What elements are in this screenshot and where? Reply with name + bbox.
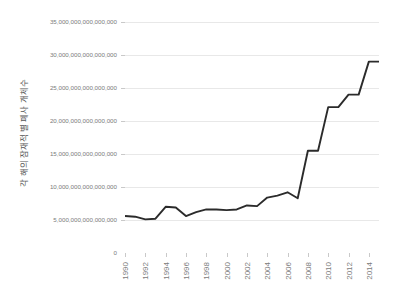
x-axis-tick-label: 2014 xyxy=(365,261,374,279)
x-axis-tick-label: 2002 xyxy=(243,261,252,279)
x-axis-tick-label: 1996 xyxy=(182,261,191,279)
y-axis-tick-label: 25,000,000,000,000,000 xyxy=(50,84,118,91)
y-axis-tick-label: 10,000,000,000,000,000 xyxy=(50,183,118,190)
y-axis-tick-label: 35,000,000,000,000,000 xyxy=(50,18,118,25)
y-axis-tick-label: 30,000,000,000,000,000 xyxy=(50,51,118,58)
x-axis-tick-label: 1998 xyxy=(202,261,211,279)
y-axis-title: 각 해의 잠재적 별 폐사 개체수 xyxy=(19,79,29,187)
x-axis-tick-label: 1992 xyxy=(141,261,150,279)
x-axis-tick-label: 2010 xyxy=(324,261,333,279)
x-axis-tick-label: 2006 xyxy=(284,261,293,279)
line-chart: 05,000,000,000,000,00010,000,000,000,000… xyxy=(0,0,397,304)
x-axis-tick-label: 2004 xyxy=(263,261,272,279)
y-axis-tick-label: 20,000,000,000,000,000 xyxy=(50,117,118,124)
chart-container: 05,000,000,000,000,00010,000,000,000,000… xyxy=(0,0,397,304)
y-axis-tick-label: 15,000,000,000,000,000 xyxy=(50,150,118,157)
x-axis-tick-label: 2012 xyxy=(345,261,354,279)
y-axis-tick-label: 5,000,000,000,000,000 xyxy=(53,216,117,223)
x-axis-tick-label: 1990 xyxy=(121,261,130,279)
x-axis-tick-label: 1994 xyxy=(162,261,171,279)
x-axis-tick-label: 2000 xyxy=(223,261,232,279)
y-axis-title-text: 각 해의 잠재적 별 폐사 개체수 xyxy=(19,79,29,187)
x-axis-tick-label: 2008 xyxy=(304,261,313,279)
y-axis-tick-label: 0 xyxy=(114,249,118,256)
